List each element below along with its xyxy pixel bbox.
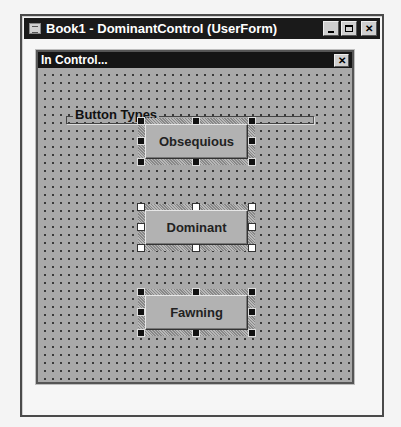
window-title-bar[interactable]: Book1 - DominantControl (UserForm) ✕ bbox=[24, 18, 380, 39]
resize-handle[interactable] bbox=[137, 329, 145, 337]
maximize-button[interactable] bbox=[341, 21, 357, 36]
dominant-button[interactable]: Dominant bbox=[145, 210, 248, 245]
resize-handle[interactable] bbox=[137, 137, 145, 145]
resize-handle[interactable] bbox=[137, 203, 145, 211]
obsequious-button[interactable]: Obsequious bbox=[145, 124, 248, 159]
resize-handle[interactable] bbox=[248, 308, 256, 316]
resize-handle[interactable] bbox=[192, 329, 200, 337]
fawning-button[interactable]: Fawning bbox=[145, 295, 248, 330]
resize-handle[interactable] bbox=[137, 244, 145, 252]
selection-fawning[interactable]: Fawning bbox=[138, 289, 255, 336]
resize-handle[interactable] bbox=[192, 158, 200, 166]
userform[interactable]: In Control... ✕ Button Types Obsequious … bbox=[36, 50, 354, 384]
resize-handle[interactable] bbox=[137, 117, 145, 125]
resize-handle[interactable] bbox=[248, 203, 256, 211]
resize-handle[interactable] bbox=[248, 158, 256, 166]
userform-icon[interactable] bbox=[29, 23, 41, 34]
close-window-button[interactable]: ✕ bbox=[361, 21, 377, 36]
resize-handle[interactable] bbox=[248, 288, 256, 296]
selection-obsequious[interactable]: Obsequious bbox=[138, 118, 255, 165]
window-title: Book1 - DominantControl (UserForm) bbox=[46, 21, 323, 36]
resize-handle[interactable] bbox=[137, 223, 145, 231]
designer-window: Book1 - DominantControl (UserForm) ✕ In … bbox=[20, 14, 384, 417]
close-icon: ✕ bbox=[365, 24, 373, 34]
resize-handle[interactable] bbox=[248, 117, 256, 125]
resize-handle[interactable] bbox=[248, 329, 256, 337]
resize-handle[interactable] bbox=[192, 244, 200, 252]
resize-handle[interactable] bbox=[248, 244, 256, 252]
design-grid[interactable]: Button Types Obsequious Dominant Fawning bbox=[38, 68, 352, 382]
minimize-button[interactable] bbox=[323, 21, 339, 36]
form-caption: In Control... bbox=[41, 53, 334, 67]
resize-handle[interactable] bbox=[137, 288, 145, 296]
selection-dominant[interactable]: Dominant bbox=[138, 204, 255, 251]
close-icon: ✕ bbox=[338, 55, 346, 66]
resize-handle[interactable] bbox=[137, 158, 145, 166]
resize-handle[interactable] bbox=[248, 137, 256, 145]
form-close-button[interactable]: ✕ bbox=[334, 54, 349, 67]
resize-handle[interactable] bbox=[248, 223, 256, 231]
resize-handle[interactable] bbox=[137, 308, 145, 316]
form-title-bar[interactable]: In Control... ✕ bbox=[38, 52, 352, 68]
